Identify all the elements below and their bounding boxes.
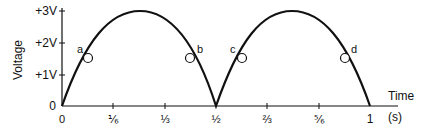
point-c-label: c [230, 43, 236, 55]
x-tick-4: ⅔ [262, 113, 271, 125]
point-b-label: b [197, 43, 203, 55]
y-axis-label: Voltage [11, 40, 25, 80]
point-d-label: d [351, 43, 357, 55]
y-tick-1: +1V [35, 68, 57, 82]
y-tick-3: +3V [35, 4, 57, 18]
x-tick-5: ⅚ [314, 113, 325, 125]
y-tick-2: +2V [35, 36, 57, 50]
x-tick-0: 0 [59, 113, 65, 125]
x-tick-6: 1 [367, 112, 374, 126]
x-tick-3: ½ [211, 113, 220, 125]
point-b-marker [186, 54, 195, 63]
point-d-marker [341, 54, 350, 63]
x-tick-2: ⅓ [160, 113, 169, 125]
x-axis-label: Time [388, 89, 415, 103]
point-a-label: a [77, 43, 84, 55]
voltage-curve [62, 11, 370, 106]
y-tick-0: 0 [49, 99, 56, 113]
x-axis-unit: (s) [388, 110, 402, 124]
point-c-marker [238, 54, 247, 63]
point-a-marker [84, 54, 93, 63]
voltage-time-graph: a b c d 0 +1V +2V +3V Voltage 0 ⅙ ⅓ ½ ⅔ … [0, 0, 430, 129]
x-tick-1: ⅙ [108, 113, 119, 125]
